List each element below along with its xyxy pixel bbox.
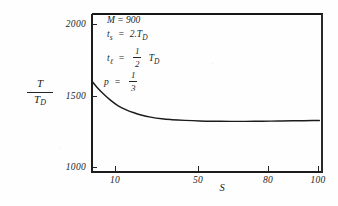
figure-log-plot: 2000 1500 1000 10 50 80 100 T TD S M = 9… — [0, 0, 338, 206]
data-curve — [0, 0, 338, 206]
